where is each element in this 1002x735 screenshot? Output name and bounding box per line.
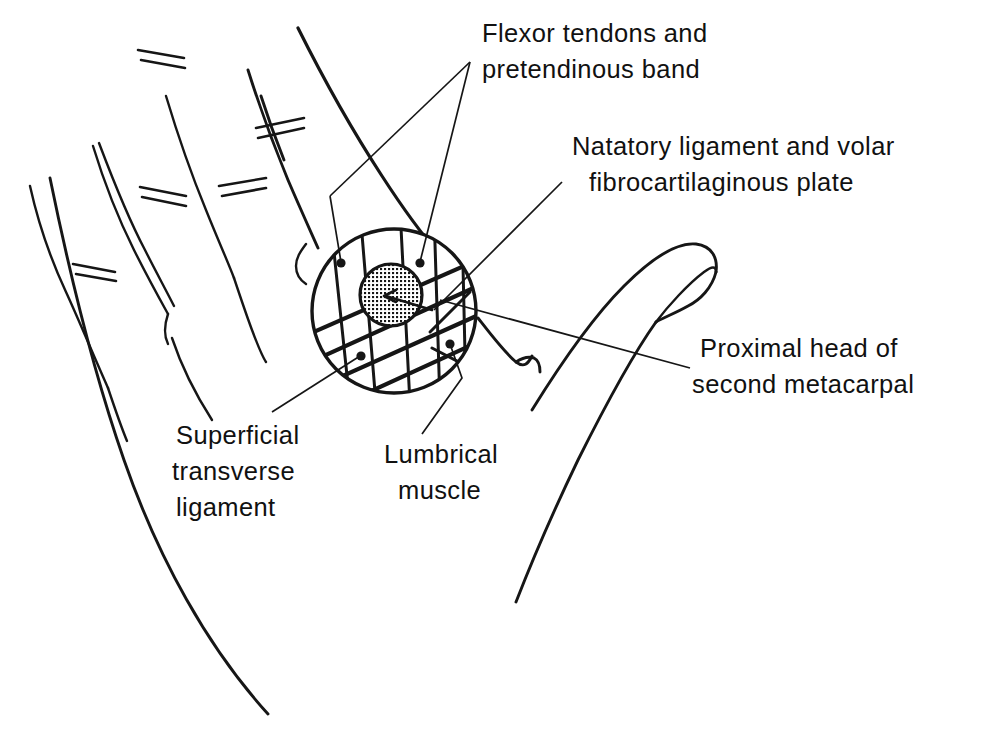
label-natatory-ligament-line-1: Natatory ligament and volar bbox=[572, 132, 895, 160]
label-superficial-transverse-ligament-line-2: transverse bbox=[172, 457, 295, 485]
label-proximal-head-line-1: Proximal head of bbox=[700, 334, 898, 362]
label-superficial-transverse-ligament-line-1: Superficial bbox=[176, 421, 299, 449]
leader-dot-flexor-tendons bbox=[336, 258, 345, 267]
leader-dot-lumbrical-muscle bbox=[445, 339, 454, 348]
label-natatory-ligament-line-2: fibrocartilaginous plate bbox=[589, 168, 854, 196]
label-lumbrical-muscle-line-1: Lumbrical bbox=[384, 440, 498, 468]
hand-anatomy-figure: Flexor tendons and pretendinous band Nat… bbox=[0, 0, 1002, 735]
label-flexor-tendons-line-2: pretendinous band bbox=[482, 55, 700, 83]
hand-anatomy-illustration: Flexor tendons and pretendinous band Nat… bbox=[0, 0, 1002, 735]
leader-dot-superficial-transverse-ligament bbox=[356, 351, 365, 360]
label-flexor-tendons-line-1: Flexor tendons and bbox=[482, 19, 708, 47]
label-proximal-head-line-2: second metacarpal bbox=[692, 370, 914, 398]
figure-background bbox=[0, 0, 1002, 735]
label-superficial-transverse-ligament-line-3: ligament bbox=[176, 493, 276, 521]
leader-dot-pretendinous-band bbox=[415, 258, 424, 267]
label-lumbrical-muscle-line-2: muscle bbox=[398, 476, 481, 504]
